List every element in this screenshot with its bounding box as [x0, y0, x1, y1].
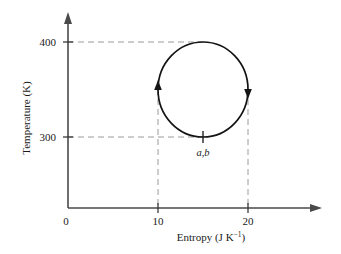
cycle-circle: [158, 42, 248, 137]
state-ab-label: a,b: [196, 147, 209, 158]
y-axis-arrowhead: [64, 12, 72, 24]
cycle-arrow-left-up: [154, 80, 162, 90]
y-axis-title: Temperature (K): [20, 81, 33, 155]
x-axis: [68, 204, 322, 212]
x-axis-arrowhead: [310, 204, 322, 212]
state-point-ab: a,b: [196, 131, 209, 158]
x-tick-label-20: 20: [243, 215, 255, 227]
x-tick-label-10: 10: [153, 215, 165, 227]
x-tick-label-0: 0: [63, 215, 69, 227]
y-tick-label-300: 300: [40, 131, 57, 143]
tick-marks: [63, 42, 248, 213]
temperature-entropy-figure: 400 300 0 10 20 a,b Entropy (J K−1) Temp…: [0, 0, 341, 254]
cycle-arrow-right-down: [244, 89, 252, 99]
thermodynamic-cycle: [154, 42, 252, 137]
guide-lines: [68, 42, 248, 208]
x-axis-title: Entropy (J K−1): [177, 230, 246, 244]
y-tick-label-400: 400: [40, 36, 57, 48]
plot-canvas: 400 300 0 10 20 a,b Entropy (J K−1) Temp…: [0, 0, 341, 254]
